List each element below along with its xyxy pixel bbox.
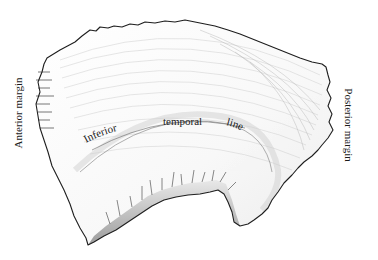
bone-illustration: Inferior temporal line: [0, 0, 378, 260]
parietal-bone-figure: Inferior temporal line Anterior margin P…: [0, 0, 378, 260]
label-temporal-text: temporal: [163, 115, 202, 127]
label-posterior-margin: Posterior margin: [341, 70, 357, 180]
label-temporal: temporal: [163, 115, 202, 127]
label-posterior-margin-text: Posterior margin: [343, 88, 355, 161]
label-anterior-margin: Anterior margin: [10, 58, 26, 168]
label-anterior-margin-text: Anterior margin: [12, 78, 24, 149]
